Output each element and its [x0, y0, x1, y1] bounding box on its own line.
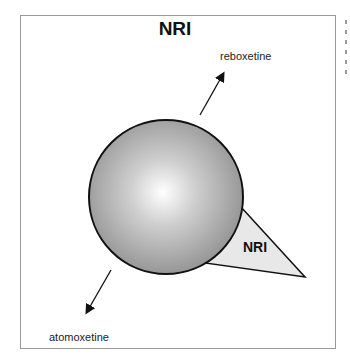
arrow-down-icon — [88, 270, 111, 310]
triangle-label: NRI — [243, 239, 267, 255]
diagram-graphics — [0, 0, 350, 362]
atomoxetine-label: atomoxetine — [49, 331, 109, 343]
reboxetine-label: reboxetine — [220, 50, 271, 62]
transporter-sphere — [89, 120, 243, 274]
arrow-up-icon — [200, 76, 222, 115]
